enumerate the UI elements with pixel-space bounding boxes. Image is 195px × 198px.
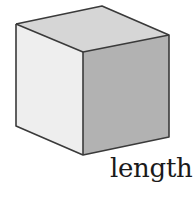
- length-label: length: [110, 153, 192, 183]
- cube-right-face: [83, 35, 169, 155]
